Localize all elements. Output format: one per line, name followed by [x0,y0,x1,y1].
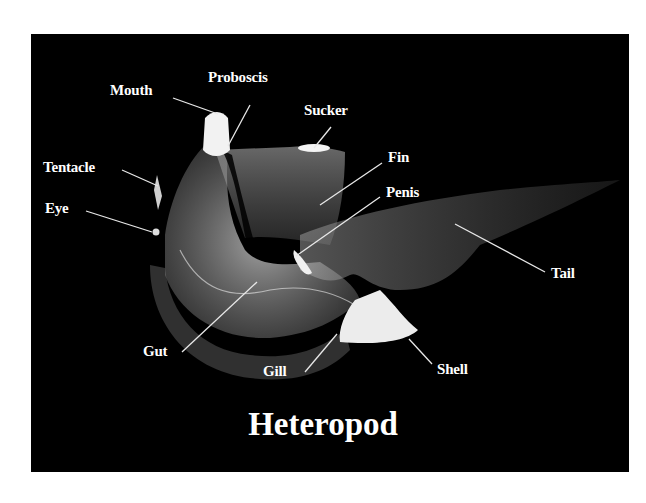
label-gut: Gut [143,344,167,359]
label-shell: Shell [437,362,468,377]
label-mouth: Mouth [110,83,152,98]
label-eye: Eye [45,201,69,216]
label-gill: Gill [263,364,286,379]
figure-title: Heteropod [0,406,646,442]
proboscis-line [228,105,250,146]
shell-line [409,339,432,364]
eye-shape [153,229,160,236]
label-tail: Tail [551,266,575,281]
label-proboscis: Proboscis [208,70,268,85]
tentacle-line [122,170,158,186]
mouth-line [173,98,218,114]
label-sucker: Sucker [304,103,348,118]
label-penis: Penis [386,185,419,200]
label-tentacle: Tentacle [43,160,95,175]
proboscis-shape [203,112,230,156]
eye-line [86,211,152,232]
tentacle-shape [154,175,162,210]
label-fin: Fin [388,150,409,165]
